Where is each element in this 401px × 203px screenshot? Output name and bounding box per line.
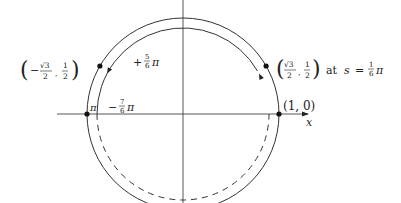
svg-text:−: − xyxy=(30,64,39,77)
svg-text:√3: √3 xyxy=(284,60,294,69)
svg-text:2: 2 xyxy=(305,71,310,80)
frac-num: 5 xyxy=(145,53,149,61)
label-pi: π xyxy=(89,102,97,113)
x-axis-label: x xyxy=(306,116,313,129)
point-pi xyxy=(84,111,89,116)
svg-text:6: 6 xyxy=(369,70,374,78)
point-neg-sqrt3-half xyxy=(97,63,102,68)
label-neg-sqrt3-half: ( − √3 2 , 1 2 ) xyxy=(20,57,80,82)
svg-text:1: 1 xyxy=(369,61,373,69)
frac-num: 7 xyxy=(120,98,124,106)
svg-text:s: s xyxy=(344,64,350,77)
pos-sign: + xyxy=(133,56,142,69)
svg-text:2: 2 xyxy=(287,71,292,80)
neg-sign: − xyxy=(108,101,117,114)
svg-text:2: 2 xyxy=(63,72,68,81)
svg-text:): ) xyxy=(71,57,80,82)
point-sqrt3-half xyxy=(264,63,269,68)
frac-den: 6 xyxy=(145,62,150,70)
frac-den: 6 xyxy=(120,107,125,115)
label-neg-seven-sixths-pi: − 7 6 π xyxy=(108,98,135,115)
svg-text:at: at xyxy=(326,64,338,77)
unit-circle-diagram: x (1, 0) π − 7 6 π + 5 6 π ( − √3 2 , 1 … xyxy=(0,0,401,203)
label-1-0: (1, 0) xyxy=(283,99,315,113)
svg-text:1: 1 xyxy=(63,61,68,70)
svg-text:=: = xyxy=(355,64,364,77)
svg-text:2: 2 xyxy=(43,72,48,81)
label-pos-five-sixths-pi: + 5 6 π xyxy=(133,53,160,70)
svg-text:,: , xyxy=(298,68,301,77)
label-sqrt3-half-at-s: ( √3 2 , 1 2 ) at s = 1 6 π xyxy=(276,56,384,81)
svg-text:1: 1 xyxy=(305,60,310,69)
arrow-start-direction xyxy=(259,74,264,80)
svg-text:,: , xyxy=(55,69,58,78)
svg-text:(: ( xyxy=(20,57,29,82)
svg-text:π: π xyxy=(375,64,384,77)
svg-text:√3: √3 xyxy=(40,61,50,70)
pi-symbol: π xyxy=(126,101,135,114)
pi-symbol: π xyxy=(151,56,160,69)
svg-text:): ) xyxy=(312,56,321,81)
point-1-0 xyxy=(276,111,281,116)
arrow-positive-direction xyxy=(107,67,112,73)
